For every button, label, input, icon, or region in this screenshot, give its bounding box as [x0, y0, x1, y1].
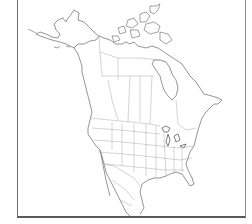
alaska [28, 10, 99, 72]
arctic-archipelago [112, 4, 172, 44]
north-america-outline-map [0, 0, 252, 224]
great-lakes [162, 126, 186, 148]
mainland-coastline [82, 36, 222, 216]
